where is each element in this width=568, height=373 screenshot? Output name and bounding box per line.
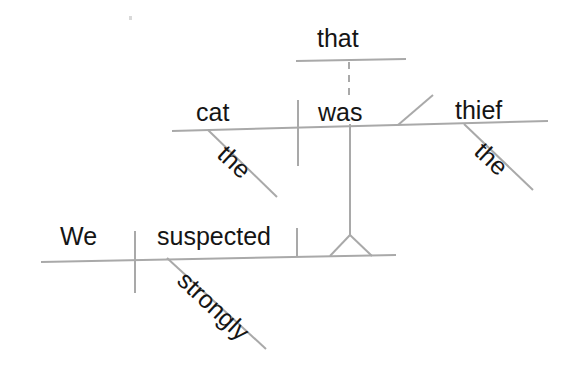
label-that: that xyxy=(317,26,359,51)
label-we: We xyxy=(60,224,97,249)
label-thief: thief xyxy=(455,98,502,123)
that-baseline xyxy=(296,59,406,61)
diagram-lines xyxy=(0,0,568,373)
pedestal-left-leg xyxy=(330,235,350,256)
label-was: was xyxy=(318,100,362,125)
main-baseline xyxy=(41,255,396,262)
label-cat: cat xyxy=(196,100,229,125)
pedestal-right-leg xyxy=(350,235,372,256)
sentence-diagram: that cat was thief We suspected the the … xyxy=(0,0,568,373)
predicate-nominative-slant xyxy=(398,95,433,125)
label-suspected: suspected xyxy=(157,224,271,249)
scan-speck xyxy=(129,16,132,20)
